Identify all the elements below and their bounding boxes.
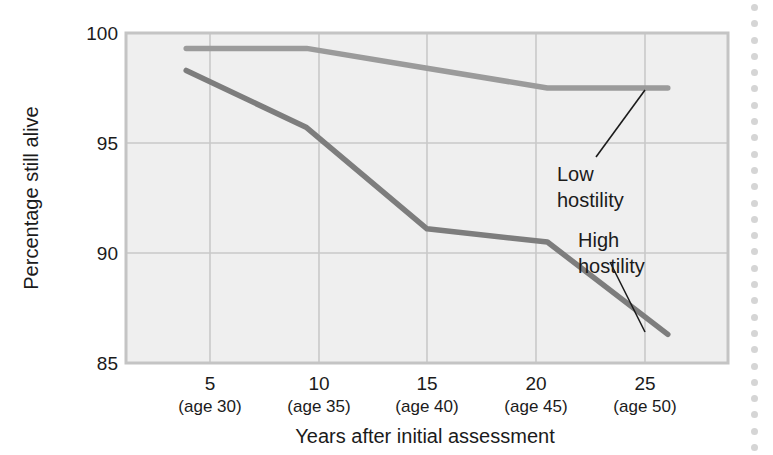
x-tick-label-5: 5 — [205, 373, 216, 394]
callout-label-low-hostility-line1: Low — [557, 163, 594, 185]
y-tick-label-90: 90 — [97, 243, 118, 264]
x-tick-label-15: 15 — [416, 373, 437, 394]
x-tick-sublabel-age-40: (age 40) — [395, 397, 458, 416]
callout-label-high-hostility-line2: hostility — [578, 255, 645, 277]
decorative-dot-border — [751, 4, 759, 455]
y-tick-label-95: 95 — [97, 133, 118, 154]
x-tick-sublabel-age-30: (age 30) — [178, 397, 241, 416]
chart-figure: Low hostility High hostility 100 95 90 8… — [0, 0, 773, 455]
line-chart: Low hostility High hostility 100 95 90 8… — [0, 0, 773, 455]
callout-label-low-hostility-line2: hostility — [557, 189, 624, 211]
x-tick-sublabel-age-35: (age 35) — [287, 397, 350, 416]
x-tick-sublabel-age-50: (age 50) — [613, 397, 676, 416]
x-tick-label-10: 10 — [308, 373, 329, 394]
x-tick-label-25: 25 — [634, 373, 655, 394]
y-axis-title: Percentage still alive — [20, 106, 42, 289]
y-tick-label-85: 85 — [97, 353, 118, 374]
x-tick-sublabel-age-45: (age 45) — [504, 397, 567, 416]
x-tick-label-20: 20 — [525, 373, 546, 394]
callout-label-high-hostility-line1: High — [578, 229, 619, 251]
x-axis-title: Years after initial assessment — [295, 425, 555, 447]
y-tick-label-100: 100 — [86, 23, 118, 44]
